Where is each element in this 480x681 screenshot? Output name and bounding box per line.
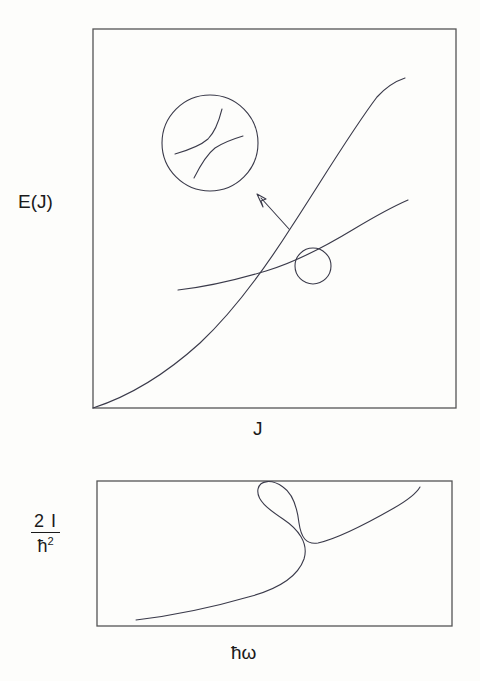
aligned-band-curve (178, 200, 408, 290)
fraction-numerator: 2 I (31, 512, 60, 533)
backbending-curve (136, 482, 420, 620)
fraction-denominator: ħ2 (31, 533, 60, 556)
zoom-pointer-arrow (257, 194, 289, 229)
band-crossing-marker-circle (295, 248, 331, 284)
figure-canvas (0, 0, 480, 681)
lower-panel-frame (97, 481, 452, 626)
lower-panel-x-axis-label: ħω (231, 643, 256, 662)
hbar-exponent: 2 (47, 535, 53, 547)
magnified-inset-circle (162, 95, 258, 191)
backbending-figure: E(J) J 2 I ħ2 ħω (0, 0, 480, 681)
inset-upper-branch-curve (175, 109, 222, 154)
upper-panel-x-axis-label: J (253, 419, 263, 438)
upper-panel-y-axis-label: E(J) (18, 192, 53, 211)
lower-panel-y-axis-label: 2 I ħ2 (31, 512, 60, 557)
ground-state-band-curve (93, 78, 405, 408)
inset-lower-branch-curve (194, 136, 243, 178)
upper-panel-frame (93, 29, 456, 408)
moment-of-inertia-fraction: 2 I ħ2 (31, 512, 60, 557)
hbar-symbol: ħ (37, 536, 47, 556)
